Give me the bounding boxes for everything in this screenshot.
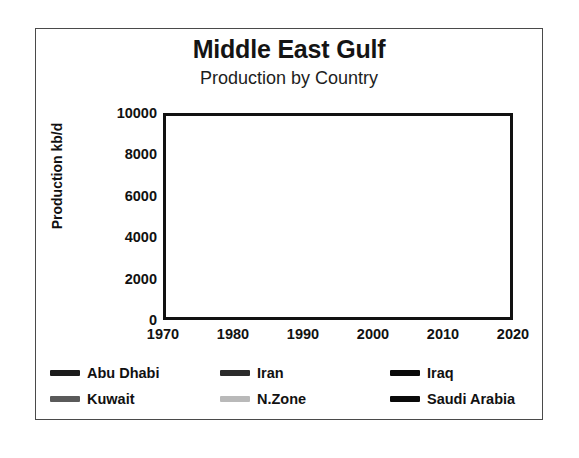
x-tick-label: 2000 <box>343 325 403 343</box>
legend-swatch-icon <box>390 396 420 402</box>
plot-area <box>163 113 513 320</box>
legend-swatch-icon <box>50 396 80 402</box>
chart-subtitle: Production by Country <box>35 66 543 90</box>
y-tick-label: 8000 <box>87 147 157 161</box>
legend-item-abu-dhabi[interactable]: Abu Dhabi <box>50 362 160 384</box>
legend-label: Iraq <box>427 365 454 381</box>
legend-label: Iran <box>257 365 284 381</box>
x-tick-label: 1990 <box>273 325 333 343</box>
legend-swatch-icon <box>220 370 250 376</box>
chart-title: Middle East Gulf <box>35 34 543 64</box>
legend-item-iraq[interactable]: Iraq <box>390 362 454 384</box>
y-tick-label: 6000 <box>87 189 157 203</box>
plot-frame <box>163 113 513 320</box>
legend-swatch-icon <box>220 396 250 402</box>
x-tick-label: 1980 <box>203 325 263 343</box>
y-tick-label: 4000 <box>87 230 157 244</box>
legend-label: Saudi Arabia <box>427 391 515 407</box>
legend-item-n-zone[interactable]: N.Zone <box>220 388 306 410</box>
chart-legend: Abu DhabiIranIraqKuwaitN.ZoneSaudi Arabi… <box>50 362 530 412</box>
y-tick-label: 2000 <box>87 272 157 286</box>
chart-figure: Middle East Gulf Production by Country P… <box>0 0 579 458</box>
legend-label: Kuwait <box>87 391 135 407</box>
x-tick-label: 2020 <box>483 325 543 343</box>
x-tick-label: 1970 <box>133 325 193 343</box>
y-axis-tick-labels: 0200040006000800010000 <box>85 113 157 320</box>
title-block: Middle East Gulf Production by Country <box>35 34 543 90</box>
x-axis-tick-labels: 197019801990200020102020 <box>163 325 513 347</box>
legend-label: N.Zone <box>257 391 306 407</box>
legend-swatch-icon <box>390 370 420 376</box>
legend-item-kuwait[interactable]: Kuwait <box>50 388 135 410</box>
y-tick-label: 10000 <box>87 106 157 120</box>
legend-swatch-icon <box>50 370 80 376</box>
x-tick-label: 2010 <box>413 325 473 343</box>
y-axis-title: Production kb/d <box>49 101 65 251</box>
legend-label: Abu Dhabi <box>87 365 160 381</box>
legend-item-saudi-arabia[interactable]: Saudi Arabia <box>390 388 515 410</box>
legend-item-iran[interactable]: Iran <box>220 362 284 384</box>
